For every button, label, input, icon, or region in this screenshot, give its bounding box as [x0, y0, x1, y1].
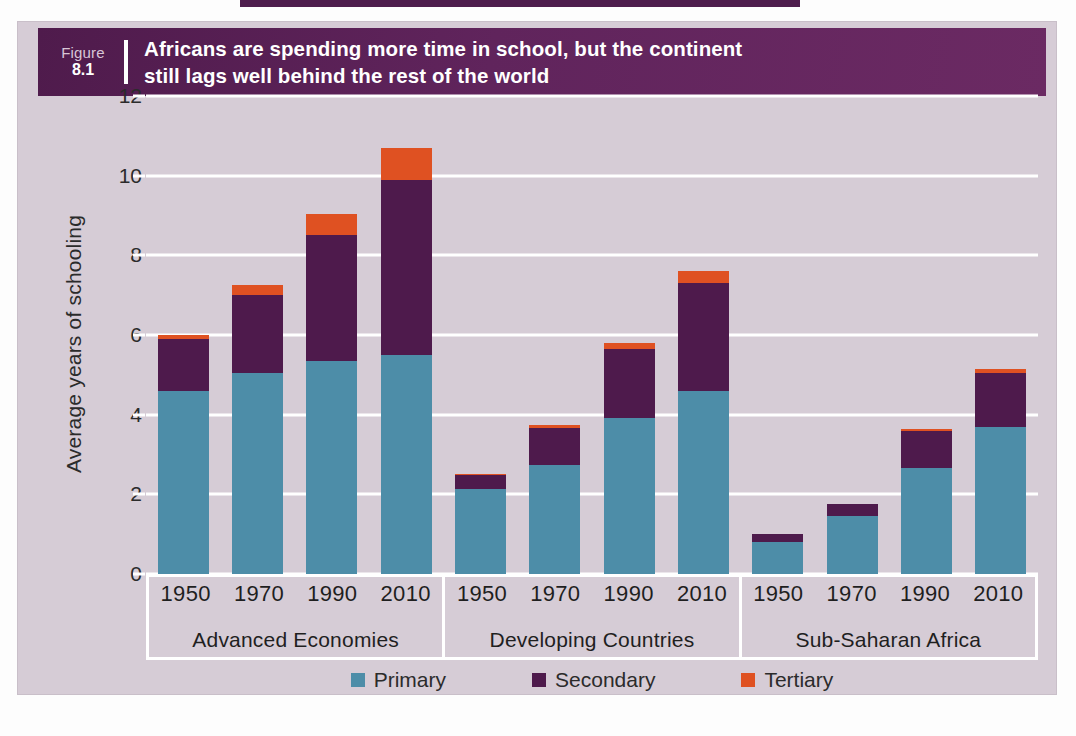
legend-label: Secondary — [555, 668, 655, 692]
y-tick-mark-12 — [133, 95, 145, 98]
legend-item-secondary[interactable]: Secondary — [532, 668, 655, 692]
bar-segment-tertiary — [678, 271, 729, 283]
legend-label: Tertiary — [764, 668, 833, 692]
bar-advanced-economies-1950 — [158, 335, 209, 574]
figure-divider-rule — [124, 40, 128, 84]
bar-segment-secondary — [158, 339, 209, 391]
y-tick-mark-6 — [133, 334, 145, 337]
scanned-page: Figure 8.1 Africans are spending more ti… — [0, 0, 1076, 736]
bar-developing-countries-1950 — [455, 474, 506, 574]
bar-segment-secondary — [306, 235, 357, 360]
plot-area: Average years of schooling 024681012 195… — [18, 96, 1056, 694]
bar-series-container — [146, 96, 1038, 574]
figure-card: Figure 8.1 Africans are spending more ti… — [18, 22, 1056, 694]
x-tick-label-1990: 1990 — [592, 581, 665, 607]
bar-segment-secondary — [975, 373, 1026, 427]
bar-segment-primary — [455, 489, 506, 574]
x-tick-label-1970: 1970 — [519, 581, 592, 607]
bar-segment-primary — [306, 361, 357, 574]
x-tick-label-2010: 2010 — [665, 581, 738, 607]
bar-segment-tertiary — [232, 285, 283, 295]
bar-segment-primary — [752, 542, 803, 574]
bar-segment-secondary — [455, 475, 506, 489]
legend-swatch-icon — [351, 673, 365, 687]
y-tick-mark-2 — [133, 493, 145, 496]
bar-developing-countries-1970 — [529, 425, 580, 574]
bar-segment-secondary — [232, 295, 283, 373]
plot-axes — [146, 96, 1038, 574]
figure-title-line-1: Africans are spending more time in schoo… — [144, 35, 742, 62]
year-tick-labels: 1950197019902010 — [149, 581, 442, 607]
bar-segment-primary — [529, 465, 580, 574]
legend-swatch-icon — [532, 673, 546, 687]
x-tick-label-1970: 1970 — [815, 581, 888, 607]
year-tick-labels: 1950197019902010 — [742, 581, 1035, 607]
legend-label: Primary — [374, 668, 446, 692]
y-axis-tick-labels: 024681012 — [80, 96, 142, 694]
year-tick-labels: 1950197019902010 — [445, 581, 738, 607]
bar-segment-secondary — [604, 349, 655, 418]
figure-number-block: Figure 8.1 — [38, 44, 124, 80]
x-tick-label-1970: 1970 — [222, 581, 295, 607]
bar-advanced-economies-1970 — [232, 285, 283, 574]
bar-developing-countries-2010 — [678, 271, 729, 574]
figure-title-line-2: still lags well behind the rest of the w… — [144, 62, 742, 89]
page-top-rule — [240, 0, 800, 7]
bar-advanced-economies-2010 — [381, 148, 432, 574]
category-group-developing-countries: 1950197019902010Developing Countries — [442, 577, 738, 657]
group-label: Developing Countries — [445, 628, 738, 652]
bar-segment-primary — [901, 468, 952, 574]
bar-segment-tertiary — [381, 148, 432, 180]
figure-title: Africans are spending more time in schoo… — [144, 35, 756, 89]
y-tick-mark-0 — [133, 573, 145, 576]
x-tick-label-1950: 1950 — [742, 581, 815, 607]
figure-header-banner: Figure 8.1 Africans are spending more ti… — [38, 28, 1046, 96]
x-tick-label-2010: 2010 — [369, 581, 442, 607]
x-tick-label-1950: 1950 — [445, 581, 518, 607]
y-tick-mark-4 — [133, 413, 145, 416]
bar-segment-secondary — [901, 431, 952, 469]
category-axis: 1950197019902010Advanced Economies195019… — [146, 574, 1038, 660]
x-tick-label-2010: 2010 — [962, 581, 1035, 607]
category-group-advanced-economies: 1950197019902010Advanced Economies — [149, 577, 442, 657]
x-tick-label-1950: 1950 — [149, 581, 222, 607]
legend-item-tertiary[interactable]: Tertiary — [741, 668, 833, 692]
bar-segment-primary — [975, 427, 1026, 574]
chart-legend: PrimarySecondaryTertiary — [146, 666, 1038, 694]
bar-segment-secondary — [827, 504, 878, 516]
bar-segment-primary — [232, 373, 283, 574]
bar-segment-primary — [678, 391, 729, 574]
group-label: Advanced Economies — [149, 628, 442, 652]
bar-segment-primary — [827, 516, 878, 574]
bar-segment-primary — [158, 391, 209, 574]
bar-sub-saharan-africa-1990 — [901, 429, 952, 574]
y-tick-mark-10 — [133, 174, 145, 177]
bar-segment-secondary — [529, 428, 580, 466]
y-tick-mark-8 — [133, 254, 145, 257]
bar-segment-primary — [381, 355, 432, 574]
bar-advanced-economies-1990 — [306, 214, 357, 574]
bar-sub-saharan-africa-1970 — [827, 504, 878, 575]
figure-number: 8.1 — [42, 61, 124, 79]
bar-segment-secondary — [678, 283, 729, 391]
bar-developing-countries-1990 — [604, 343, 655, 574]
bar-sub-saharan-africa-1950 — [752, 534, 803, 574]
legend-item-primary[interactable]: Primary — [351, 668, 446, 692]
legend-swatch-icon — [741, 673, 755, 687]
category-group-sub-saharan-africa: 1950197019902010Sub-Saharan Africa — [739, 577, 1035, 657]
group-label: Sub-Saharan Africa — [742, 628, 1035, 652]
bar-segment-secondary — [752, 534, 803, 542]
bar-sub-saharan-africa-2010 — [975, 369, 1026, 574]
bar-segment-primary — [604, 418, 655, 574]
bar-segment-tertiary — [306, 214, 357, 236]
x-tick-label-1990: 1990 — [888, 581, 961, 607]
bar-segment-secondary — [381, 180, 432, 355]
figure-label-word: Figure — [42, 44, 124, 61]
x-tick-label-1990: 1990 — [296, 581, 369, 607]
